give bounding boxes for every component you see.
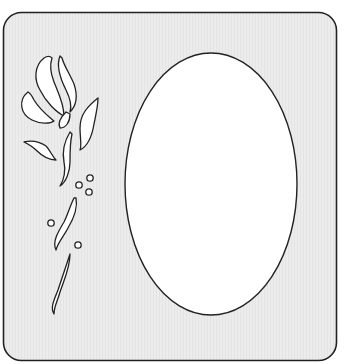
dot-5 — [87, 175, 93, 181]
stencil-illustration — [0, 0, 346, 364]
dot-4 — [75, 242, 81, 248]
dot-3 — [48, 220, 54, 226]
oval-window-cutout — [125, 53, 297, 315]
dot-2 — [86, 189, 92, 195]
dot-1 — [76, 182, 82, 188]
stencil-svg — [0, 0, 346, 364]
